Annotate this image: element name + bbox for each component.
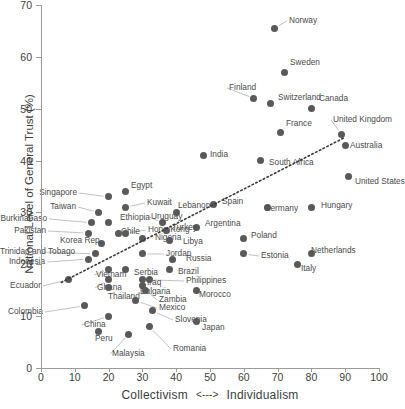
x-tick-label-30: 30 [129,372,155,383]
data-point-label: Germany [264,204,298,213]
data-point[interactable] [308,204,315,211]
data-point[interactable] [169,256,176,263]
data-point-label: China [84,320,106,329]
data-point-label: Australia [350,141,382,150]
x-axis-title-left: Collectivism [121,388,187,402]
x-tick-label-0: 0 [28,372,54,383]
data-point[interactable] [345,173,352,180]
data-point[interactable] [65,276,72,283]
x-tick-label-80: 80 [298,372,324,383]
data-point-label: Switzerland [278,93,321,102]
data-point-label: Norway [289,16,317,25]
data-point-label: Kuwait [147,198,172,207]
data-point[interactable] [122,204,129,211]
data-point-label: Estonia [261,251,289,260]
x-tick-label-20: 20 [96,372,122,383]
data-point-label: Sweden [290,58,320,67]
data-point[interactable] [342,142,349,149]
y-tick-label-10: 10 [6,311,32,321]
data-point-label: United Kingdom [333,115,392,124]
data-point[interactable] [142,287,149,294]
data-point-label: Hungary [321,201,352,210]
data-point-label: India [210,150,228,159]
data-point[interactable] [122,266,129,273]
data-point-label: Malaysia [112,349,145,358]
data-point-label: Argentina [205,219,241,228]
data-point-label: Lebanon [178,201,210,210]
data-point[interactable] [210,201,217,208]
x-tick-label-70: 70 [265,372,291,383]
data-point[interactable] [122,230,129,237]
data-point[interactable] [146,323,153,330]
data-point-label: South Africa [269,158,314,167]
x-tick-label-10: 10 [62,372,88,383]
y-axis-title: National Level of General Trust (%) [23,59,35,309]
data-point[interactable] [92,250,99,257]
data-point[interactable] [200,152,207,159]
data-point-label: Korea Rep. [0,236,102,245]
data-point-label: Spain [222,197,243,206]
y-tick-50 [36,109,41,110]
data-point[interactable] [163,227,170,234]
data-point[interactable] [271,25,278,32]
data-point[interactable] [166,266,173,273]
data-point-label: Finland [229,83,256,92]
data-point-label: Russia [186,254,211,263]
data-point-label: United States [355,177,405,186]
data-point-label: Egypt [131,181,152,190]
data-point-label: Japan [202,323,225,332]
data-point-label: Italy [301,264,316,273]
y-tick-40 [36,161,41,162]
x-tick-label-40: 40 [163,372,189,383]
x-tick-label-90: 90 [332,372,358,383]
data-point[interactable] [85,256,92,263]
y-tick-10 [36,316,41,317]
data-point-label: Mexico [159,303,185,312]
data-point-label: Peru [95,334,113,343]
data-point-label: Philippines [186,276,226,285]
data-point[interactable] [146,276,153,283]
data-point-label: Ethiopia [120,213,150,222]
data-point-label: Morocco [199,290,231,299]
data-point-label: Turkey [172,223,197,232]
data-point-label: France [286,119,312,128]
y-tick-30 [36,212,41,213]
data-point-label: Singapore [0,188,77,197]
data-point-label: Canada [319,94,348,103]
data-point-label: Netherlands [311,246,356,255]
data-point-label: Uruguay [151,212,182,221]
y-tick-20 [36,264,41,265]
data-point[interactable] [105,313,112,320]
y-tick-60 [36,57,41,58]
data-point[interactable] [95,209,102,216]
x-tick-label-50: 50 [197,372,223,383]
y-tick-70 [36,5,41,6]
data-point[interactable] [281,69,288,76]
x-axis-title-right: Individualism [227,388,299,402]
x-axis-title-separator: <---> [188,389,227,400]
data-point-label: Poland [251,231,277,240]
data-point-label: Serbia [134,268,158,277]
data-point-label: Libya [183,237,203,246]
data-point-label: Romania [173,344,206,353]
x-axis-title: Collectivism<--->Individualism [41,388,379,402]
x-tick-label-60: 60 [231,372,257,383]
x-tick-label-100: 100 [366,372,392,383]
data-point[interactable] [193,318,200,325]
data-point[interactable] [139,235,146,242]
y-axis-line [41,5,42,368]
y-tick-label-70: 70 [6,0,32,10]
